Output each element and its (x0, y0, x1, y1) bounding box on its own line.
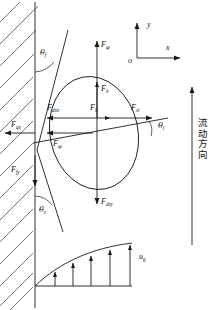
theta-right-label: θi (158, 122, 164, 130)
force-label-ffy: Ffy (11, 166, 20, 174)
theta-upper-arc (35, 62, 54, 72)
force-label-fqx: Fqx (11, 121, 21, 129)
theta-right-arc (149, 121, 152, 136)
flow-direction-label: 流动方向 (195, 118, 209, 160)
velocity-profile-curve (35, 243, 132, 286)
force-label-fh-right: Fh (90, 104, 97, 112)
diagram-canvas: y x o θf θs θi Fφ Fh Fdsn Fh Fsl Fqx Fφ … (0, 0, 212, 310)
theta-upper-label: θf (40, 49, 46, 57)
force-label-fh-up: Fh (101, 85, 108, 93)
velocity-profile-label: ug (139, 253, 146, 261)
axis-y-label: y (147, 21, 151, 29)
wall-hatching (0, 2, 38, 310)
force-label-fsl: Fsl (131, 104, 139, 112)
force-label-fdsn: Fdsn (47, 104, 59, 112)
axes-group (137, 23, 180, 58)
theta-lower-arc (35, 196, 52, 205)
theta-lower-label: θs (39, 206, 46, 214)
angle-arcs-group (35, 62, 152, 205)
axis-x-label: x (166, 44, 170, 52)
force-label-fdsy: Fdsy (101, 198, 113, 206)
force-label-fqp-up: Fφ (101, 41, 110, 49)
force-vectors-group (5, 41, 152, 204)
lower-incline-line (37, 150, 63, 232)
force-label-fqp-lower: Fφ (53, 140, 62, 148)
velocity-profile-group (35, 243, 132, 286)
axis-origin-label: o (128, 57, 132, 65)
